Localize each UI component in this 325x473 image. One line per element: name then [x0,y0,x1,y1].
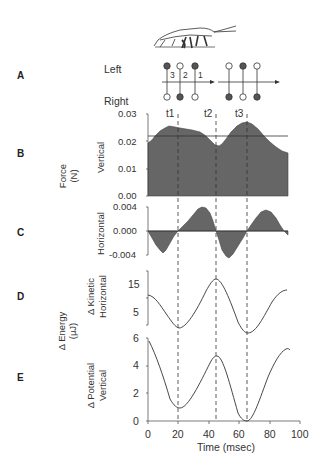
panel-d-chart [146,271,287,333]
panel-b-chart [146,114,288,196]
cockroach-illustration [154,26,236,48]
gait-diagram [162,63,280,100]
panel-e-chart [146,338,300,424]
panel-c-chart [146,207,288,258]
figure-graphics [0,0,325,473]
